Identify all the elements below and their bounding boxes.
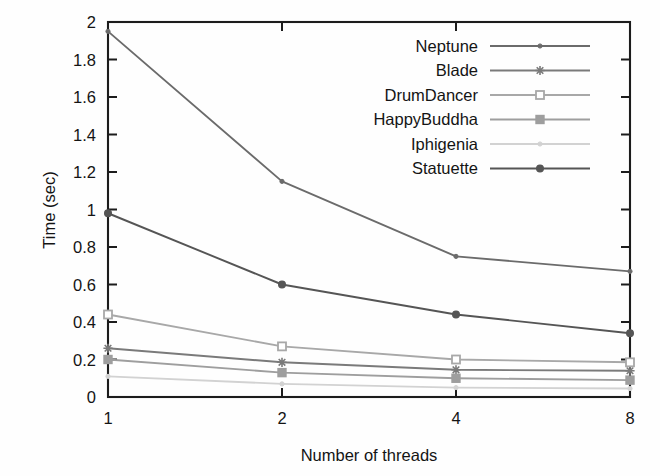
x-axis-ticks	[282, 388, 456, 397]
data-point-marker	[278, 342, 286, 350]
data-point-marker	[451, 365, 460, 374]
series-statuette	[105, 210, 634, 337]
data-point-marker	[280, 179, 284, 183]
data-point-marker	[453, 311, 460, 318]
y-axis-tick-labels: 00.20.40.60.811.21.41.61.82	[73, 13, 96, 406]
data-point-marker	[103, 344, 112, 353]
series-blade	[103, 344, 634, 376]
data-point-marker	[106, 29, 110, 33]
y-tick-label: 2	[87, 13, 96, 31]
chart-legend: NeptuneBladeDrumDancerHappyBuddhaIphigen…	[373, 37, 590, 178]
line-chart: 00.20.40.60.811.21.41.61.82 1248 Neptune…	[0, 0, 660, 476]
y-axis-ticks-right	[621, 60, 630, 360]
data-point-marker	[278, 369, 286, 377]
data-point-marker	[279, 281, 286, 288]
x-axis-tick-labels: 1248	[103, 409, 634, 427]
series-iphigenia	[106, 374, 632, 390]
legend-label-happybuddha: HappyBuddha	[373, 110, 478, 128]
y-tick-label: 0.8	[73, 238, 96, 256]
data-point-marker	[105, 210, 112, 217]
series-line	[108, 348, 630, 371]
data-point-marker	[535, 66, 544, 75]
y-tick-label: 1.6	[73, 88, 96, 106]
data-point-marker	[537, 165, 544, 172]
y-tick-label: 0	[87, 388, 96, 406]
x-tick-label: 8	[625, 409, 634, 427]
y-tick-label: 1.4	[73, 126, 96, 144]
series-line	[108, 376, 630, 388]
series-line	[108, 31, 630, 271]
series-drumdancer	[104, 311, 634, 367]
data-point-marker	[627, 330, 634, 337]
data-point-marker	[454, 386, 458, 390]
x-axis-ticks-top	[282, 22, 456, 31]
data-point-marker	[538, 44, 542, 48]
legend-label-iphigenia: Iphigenia	[411, 135, 479, 153]
y-tick-label: 0.4	[73, 313, 96, 331]
data-point-marker	[104, 311, 112, 319]
x-tick-label: 1	[103, 409, 112, 427]
series-line	[108, 213, 630, 333]
data-point-marker	[626, 376, 634, 384]
data-point-marker	[452, 356, 460, 364]
data-point-marker	[454, 254, 458, 258]
data-point-marker	[625, 366, 634, 375]
legend-label-drumdancer: DrumDancer	[384, 86, 478, 104]
data-point-marker	[452, 374, 460, 382]
data-point-marker	[628, 269, 632, 273]
x-tick-label: 4	[451, 409, 460, 427]
y-tick-label: 1.8	[73, 51, 96, 69]
y-tick-label: 0.6	[73, 276, 96, 294]
data-point-marker	[280, 382, 284, 386]
y-tick-label: 1.2	[73, 163, 96, 181]
data-point-marker	[104, 356, 112, 364]
legend-label-blade: Blade	[436, 61, 478, 79]
data-point-marker	[626, 358, 634, 366]
x-axis-title: Number of threads	[301, 446, 438, 464]
plot-frame	[108, 22, 630, 397]
data-point-marker	[106, 374, 110, 378]
x-tick-label: 2	[277, 409, 286, 427]
data-point-marker	[628, 386, 632, 390]
y-tick-label: 0.2	[73, 351, 96, 369]
series-group	[103, 29, 634, 390]
data-point-marker	[536, 91, 544, 99]
y-tick-label: 1	[87, 201, 96, 219]
series-neptune	[106, 29, 632, 273]
y-axis-title: Time (sec)	[40, 171, 58, 248]
data-point-marker	[538, 142, 542, 146]
data-point-marker	[536, 116, 544, 124]
chart-figure: 00.20.40.60.811.21.41.61.82 1248 Neptune…	[0, 0, 660, 476]
legend-label-statuette: Statuette	[412, 159, 478, 177]
legend-label-neptune: Neptune	[416, 37, 478, 55]
data-point-marker	[277, 358, 286, 367]
